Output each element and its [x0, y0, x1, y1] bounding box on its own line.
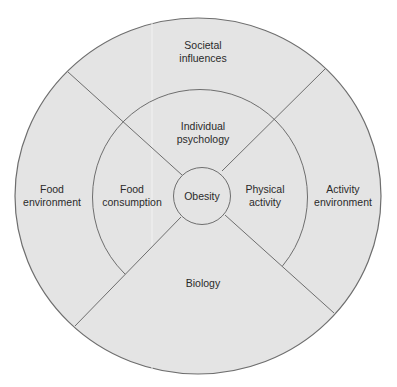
- label-physical-activity: Physical activity: [245, 183, 284, 209]
- label-food-consumption: Food consumption: [102, 183, 162, 209]
- label-obesity: Obesity: [184, 190, 220, 203]
- label-individual-psychology: Individual psychology: [177, 120, 230, 146]
- label-societal-influences: Societal influences: [179, 39, 226, 65]
- label-biology: Biology: [186, 277, 220, 290]
- label-activity-environment: Activity environment: [314, 183, 372, 209]
- label-food-environment: Food environment: [23, 183, 81, 209]
